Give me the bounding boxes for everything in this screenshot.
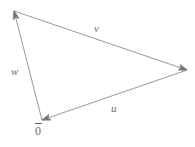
origin-label-text: 0 xyxy=(35,124,41,138)
vector-label-w: w xyxy=(11,66,18,77)
vector-label-u: u xyxy=(111,103,117,114)
vector-triangle-figure: v w u 0 xyxy=(0,0,195,147)
vector-v-line xyxy=(14,11,187,70)
origin-label: 0 xyxy=(35,123,42,137)
vector-label-v: v xyxy=(94,23,99,34)
